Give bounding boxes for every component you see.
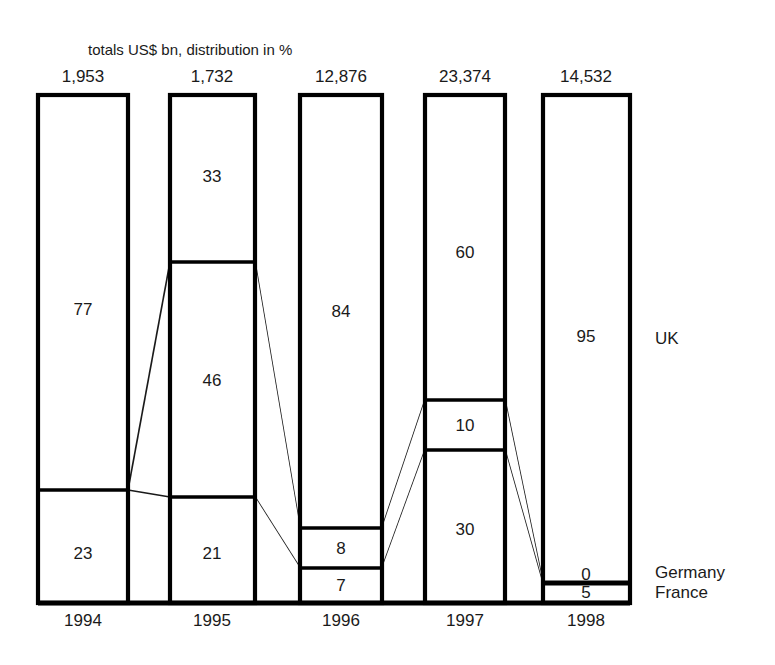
- total-1996: 12,876: [315, 67, 367, 86]
- value-1996-germany: 8: [336, 539, 345, 558]
- value-1996-france: 7: [336, 576, 345, 595]
- year-label-1998: 1998: [567, 611, 605, 630]
- chart-caption: totals US$ bn, distribution in %: [88, 41, 292, 58]
- value-1996-uk: 84: [332, 302, 351, 321]
- value-1997-uk: 60: [456, 243, 475, 262]
- distribution-band-chart: totals US$ bn, distribution in % 1,953 1…: [0, 0, 775, 665]
- series-label-germany: Germany: [655, 563, 725, 582]
- column-1997[interactable]: 60 10 30: [425, 95, 505, 603]
- column-box-1998: [543, 95, 630, 603]
- column-1996[interactable]: 84 8 7: [300, 95, 382, 603]
- column-1995[interactable]: 33 46 21: [170, 95, 255, 603]
- value-1997-germany: 10: [456, 416, 475, 435]
- total-1995: 1,732: [191, 67, 234, 86]
- year-label-1997: 1997: [446, 611, 484, 630]
- value-1994-france: 23: [74, 544, 93, 563]
- total-1998: 14,532: [560, 67, 612, 86]
- column-1994[interactable]: 77 23: [38, 95, 128, 603]
- value-1995-france: 21: [203, 544, 222, 563]
- value-1994-uk: 77: [74, 300, 93, 319]
- column-1998[interactable]: 95 0 5: [543, 95, 630, 603]
- series-label-france: France: [655, 583, 708, 602]
- value-1998-germany: 0: [581, 565, 590, 584]
- year-label-1995: 1995: [193, 611, 231, 630]
- year-label-1996: 1996: [322, 611, 360, 630]
- total-1997: 23,374: [439, 67, 491, 86]
- value-1998-france: 5: [581, 583, 590, 602]
- value-1995-uk: 33: [203, 167, 222, 186]
- value-1995-germany: 46: [203, 371, 222, 390]
- year-label-1994: 1994: [64, 611, 102, 630]
- total-1994: 1,953: [62, 67, 105, 86]
- value-1998-uk: 95: [577, 327, 596, 346]
- chart-canvas: totals US$ bn, distribution in % 1,953 1…: [0, 0, 775, 665]
- column-box-1994: [38, 95, 128, 603]
- band-france-1994-1995: [128, 490, 170, 603]
- value-1997-france: 30: [456, 520, 475, 539]
- series-label-uk: UK: [655, 329, 679, 348]
